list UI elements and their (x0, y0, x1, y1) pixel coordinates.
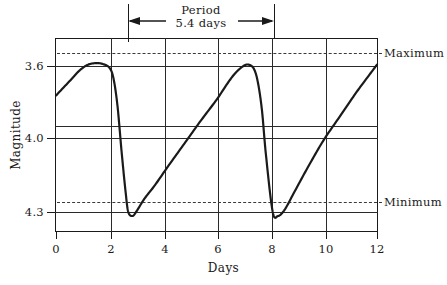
period-annotation: Period 5.4 days (126, 4, 276, 30)
period-arrow (0, 0, 447, 285)
light-curve-figure: 0 2 4 6 8 10 12 3.6 4.0 4.3 Days Magnitu… (0, 0, 447, 285)
period-value: 5.4 days (126, 17, 276, 30)
